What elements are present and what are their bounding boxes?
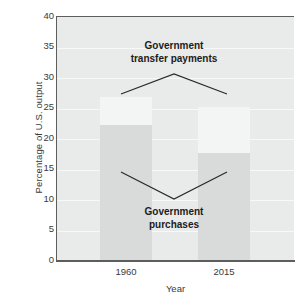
annotation-purchases-line2: purchases (104, 219, 244, 232)
x-axis-title: Year (57, 283, 294, 294)
y-tick-25: 25 (28, 102, 54, 112)
gridline-30 (57, 78, 294, 79)
bar-1960-purchases (100, 125, 152, 261)
annotation-transfer-payments-line1: Government (104, 40, 244, 53)
y-tick-5: 5 (28, 224, 54, 234)
y-tick-35: 35 (28, 41, 54, 51)
bar-1960-transfer-payments (100, 97, 152, 125)
annotation-purchases: Government purchases (104, 206, 244, 231)
y-tick-20: 20 (28, 133, 54, 143)
x-tick-2015: 2015 (194, 266, 254, 277)
x-axis-line (56, 260, 295, 262)
x-tick-1960: 1960 (96, 266, 156, 277)
y-axis-line (56, 16, 57, 261)
annotation-purchases-line1: Government (104, 206, 244, 219)
gridline-10 (57, 200, 294, 201)
y-tick-10: 10 (28, 194, 54, 204)
y-tick-40: 40 (28, 11, 54, 21)
gridline-20 (57, 139, 294, 140)
gridline-25 (57, 109, 294, 110)
annotation-transfer-payments: Government transfer payments (104, 40, 244, 65)
gridline-15 (57, 170, 294, 171)
y-tick-0: 0 (28, 255, 54, 265)
annotation-transfer-payments-line2: transfer payments (104, 53, 244, 66)
chart-figure: Percentage of U.S. output 40 35 30 25 20… (0, 0, 307, 303)
bar-2015-transfer-payments (198, 107, 250, 153)
y-axis-tick-labels: 40 35 30 25 20 15 10 5 0 (14, 0, 54, 303)
y-tick-30: 30 (28, 72, 54, 82)
y-tick-15: 15 (28, 163, 54, 173)
